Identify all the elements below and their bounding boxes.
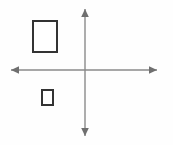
coordinate-plane-svg [0,0,173,145]
diagram-background [0,0,173,145]
diagram-canvas [0,0,173,145]
small-rectangle [42,90,53,105]
large-rectangle [33,21,57,52]
